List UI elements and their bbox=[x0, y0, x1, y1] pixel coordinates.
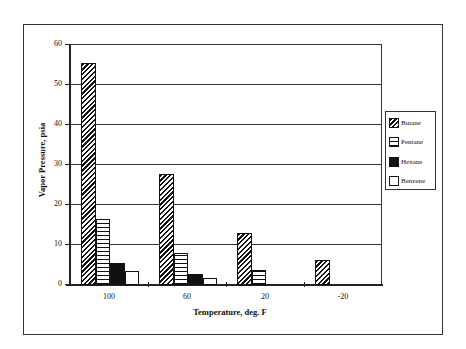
x-tick-label: 100 bbox=[89, 292, 129, 301]
bar-butane-60 bbox=[159, 174, 174, 285]
x-tick-mark bbox=[148, 282, 149, 287]
y-axis-title: Vapor Pressure, psia bbox=[37, 100, 47, 220]
legend: Butane Pentane Hexane Benzene bbox=[385, 111, 436, 190]
bar-pentane-60 bbox=[174, 253, 189, 285]
bar-hexane-60 bbox=[188, 274, 203, 285]
y-tick-mark bbox=[65, 284, 70, 285]
y-tick-mark bbox=[65, 44, 70, 45]
y-tick-mark bbox=[65, 204, 70, 205]
y-tick-label: 10 bbox=[40, 239, 62, 248]
bar-butane-100 bbox=[81, 63, 96, 285]
x-tick-mark bbox=[304, 282, 305, 287]
x-tick-label: -20 bbox=[323, 292, 363, 301]
y-tick-label: 50 bbox=[40, 79, 62, 88]
bar-hexane-100 bbox=[110, 263, 125, 285]
gridline bbox=[70, 84, 382, 85]
gridline bbox=[70, 244, 382, 245]
pentane-swatch bbox=[389, 137, 399, 147]
benzene-swatch bbox=[389, 176, 399, 186]
hexane-swatch bbox=[389, 157, 399, 167]
y-tick-mark bbox=[65, 244, 70, 245]
legend-item-pentane: Pentane bbox=[389, 137, 435, 148]
x-tick-label: 60 bbox=[167, 292, 207, 301]
bar-pentane-100 bbox=[96, 219, 111, 285]
bar-butane-20 bbox=[237, 233, 252, 285]
y-tick-mark bbox=[65, 84, 70, 85]
y-tick-mark bbox=[65, 124, 70, 125]
legend-item-hexane: Hexane bbox=[389, 157, 435, 168]
legend-label: Hexane bbox=[401, 157, 422, 168]
x-axis-title: Temperature, deg. F bbox=[150, 307, 310, 317]
legend-item-benzene: Benzene bbox=[389, 176, 435, 187]
bar-benzene-60 bbox=[203, 278, 218, 285]
butane-swatch bbox=[389, 118, 399, 128]
legend-label: Benzene bbox=[401, 176, 425, 187]
gridline bbox=[70, 124, 382, 125]
bar-pentane-20 bbox=[252, 270, 267, 285]
gridline bbox=[70, 204, 382, 205]
legend-label: Pentane bbox=[401, 137, 423, 148]
gridline bbox=[70, 164, 382, 165]
bar-benzene-100 bbox=[125, 271, 140, 285]
y-tick-mark bbox=[65, 164, 70, 165]
x-tick-mark bbox=[226, 282, 227, 287]
legend-item-butane: Butane bbox=[389, 118, 435, 129]
y-tick-label: 60 bbox=[40, 39, 62, 48]
legend-label: Butane bbox=[401, 118, 421, 129]
y-tick-label: 0 bbox=[40, 279, 62, 288]
bar-butane--20 bbox=[315, 260, 330, 285]
x-tick-label: 20 bbox=[245, 292, 285, 301]
